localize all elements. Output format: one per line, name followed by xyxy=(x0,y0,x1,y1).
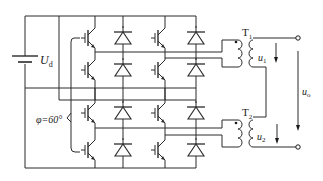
phase-shift-label: φ=60° xyxy=(36,114,62,125)
igbt-5 xyxy=(81,99,95,127)
voltage-1-label: u1 xyxy=(258,52,267,65)
output-terminal-bottom xyxy=(296,145,300,149)
voltage-2-arrow xyxy=(275,124,279,144)
igbt-4 xyxy=(151,56,165,84)
igbt-8 xyxy=(151,136,165,164)
igbt-6 xyxy=(81,136,95,164)
igbt-2 xyxy=(81,56,95,84)
voltage-1-arrow xyxy=(274,43,278,63)
inverter-1 xyxy=(81,16,222,100)
transformer-1-label: T1 xyxy=(242,26,253,41)
dc-source-battery xyxy=(12,56,38,62)
transformer-1 xyxy=(222,38,296,117)
dc-source-label: Ud xyxy=(40,53,53,69)
circuit-diagram: Ud φ=60° xyxy=(0,0,323,181)
igbt-3 xyxy=(151,24,165,52)
igbt-1 xyxy=(81,24,95,52)
output-terminal-top xyxy=(296,36,300,40)
igbt-7 xyxy=(151,99,165,127)
voltage-2-label: u2 xyxy=(257,131,266,144)
output-voltage-arrow xyxy=(296,51,300,131)
gate-drive-line xyxy=(67,38,80,152)
dc-bus-wires xyxy=(25,16,196,168)
output-voltage-label: uo xyxy=(302,86,311,99)
transformer-2-label: T2 xyxy=(242,106,253,121)
